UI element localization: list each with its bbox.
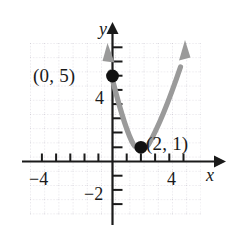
x-tick-label-4: 4 — [167, 170, 176, 188]
point-0-5 — [106, 70, 119, 83]
x-tick-label-neg4: −4 — [29, 170, 48, 188]
plot-canvas — [0, 0, 234, 231]
y-tick-label-4: 4 — [95, 89, 104, 107]
annotation-point-0-5: (0, 5) — [33, 66, 75, 85]
y-axis-label: y — [99, 20, 107, 38]
x-axis-label: x — [206, 166, 214, 184]
annotation-point-2-1: (2, 1) — [146, 134, 188, 153]
y-tick-label-neg2: −2 — [84, 185, 103, 203]
parabola-graph-figure: (0, 5) (2, 1) y x −4 4 4 −2 — [0, 0, 234, 231]
